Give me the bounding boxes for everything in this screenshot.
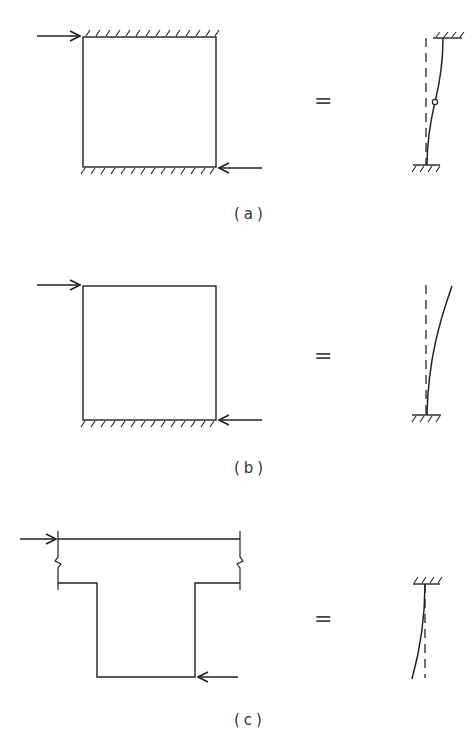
top-support-hatch [436, 32, 464, 37]
panel-b-wall [37, 285, 262, 427]
top-support-hatch [414, 577, 442, 583]
structural-diagram [0, 0, 474, 747]
break-mark-left [55, 531, 61, 590]
equals-sign-c: = [314, 606, 332, 631]
wall-panel-a [83, 37, 216, 167]
bottom-support-hatch [412, 166, 440, 172]
inflection-point [432, 99, 437, 104]
wall-panel-b [83, 286, 216, 420]
panel-c-deflection [412, 577, 442, 679]
equals-sign-a: = [314, 88, 332, 113]
panel-label-a: (a) [234, 205, 267, 223]
panel-a-deflection [412, 32, 464, 172]
fixed-support-bottom-hatch [81, 168, 214, 174]
equals-sign-b: = [314, 343, 332, 368]
t-section-outline [58, 583, 240, 677]
deflected-shape [412, 584, 425, 679]
panel-label-c: (c) [234, 711, 266, 729]
fixed-support-top-hatch [86, 30, 219, 36]
panel-c-section [20, 531, 243, 677]
panel-label-b: (b) [234, 459, 267, 477]
bottom-support-hatch [412, 416, 440, 422]
break-mark-right [237, 531, 243, 590]
panel-b-deflection [412, 285, 452, 422]
deflected-shape [427, 286, 452, 415]
fixed-support-bottom-hatch [81, 421, 214, 427]
panel-a-wall [37, 30, 262, 174]
